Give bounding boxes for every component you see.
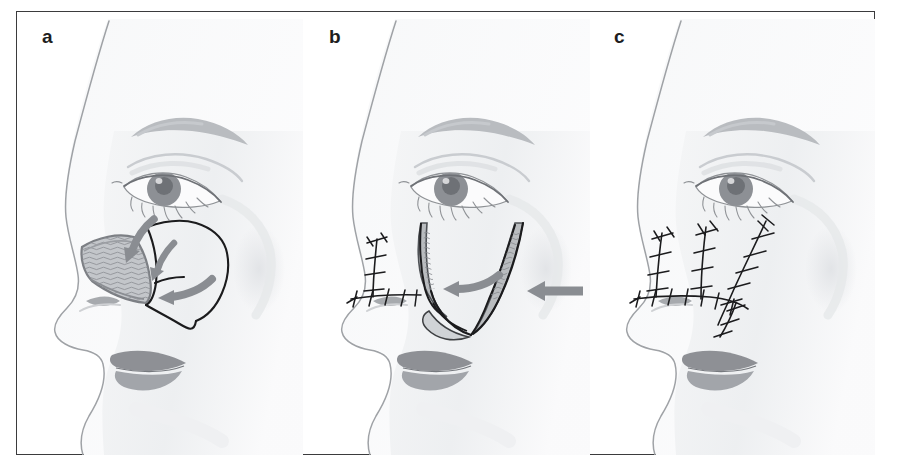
panel-a-illustration [16,11,303,455]
figure-container: a [0,0,904,470]
panel-b-illustration [303,11,590,455]
panel-c-illustration [588,11,875,455]
face-silhouette [627,19,875,455]
panel-c: c [588,11,875,455]
face-silhouette [55,19,303,455]
panel-c-label: c [614,27,625,46]
panel-a-label: a [42,27,53,46]
panel-b-label: b [329,27,341,46]
face-silhouette [342,19,590,455]
panel-b: b [303,11,590,455]
panel-a: a [16,11,303,455]
